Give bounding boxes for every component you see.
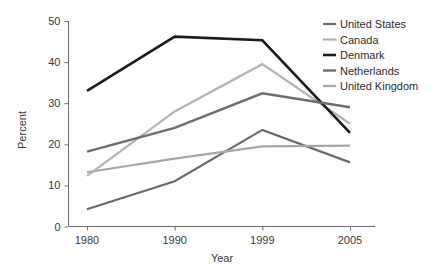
legend-label-united-kingdom: United Kingdom (340, 80, 418, 92)
x-axis-ticks: 1980199019992005 (75, 227, 362, 246)
y-axis-ticks: 01020304050 (48, 15, 68, 233)
x-axis-title: Year (211, 252, 234, 264)
legend-label-denmark: Denmark (340, 49, 385, 61)
y-tick-label: 40 (48, 56, 60, 68)
x-tick-label: 1990 (162, 234, 186, 246)
x-tick-label: 1999 (250, 234, 274, 246)
line-chart: 01020304050 1980199019992005 Percent Yea… (0, 0, 431, 268)
series-line-united-kingdom (87, 146, 350, 173)
legend-label-united-states: United States (340, 18, 407, 30)
legend-label-canada: Canada (340, 34, 379, 46)
x-tick-label: 1980 (75, 234, 99, 246)
chart-legend: United StatesCanadaDenmarkNetherlandsUni… (323, 18, 418, 92)
series-line-netherlands (87, 93, 350, 151)
series-line-canada (87, 64, 350, 176)
data-series-group (87, 37, 350, 210)
y-tick-label: 30 (48, 97, 60, 109)
chart-container: 01020304050 1980199019992005 Percent Yea… (0, 0, 431, 268)
y-axis-title: Percent (16, 111, 28, 149)
y-tick-label: 20 (48, 138, 60, 150)
x-tick-label: 2005 (338, 234, 362, 246)
y-tick-label: 50 (48, 15, 60, 27)
legend-label-netherlands: Netherlands (340, 65, 400, 77)
series-line-denmark (87, 37, 350, 133)
y-tick-label: 10 (48, 179, 60, 191)
y-tick-label: 0 (54, 221, 60, 233)
